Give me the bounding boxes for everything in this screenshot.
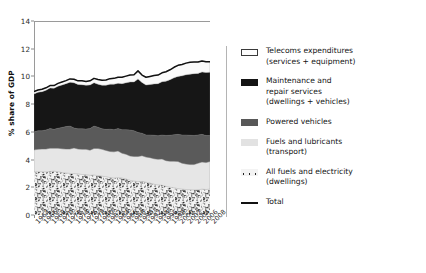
y-axis-title: % share of GDP: [7, 58, 21, 148]
legend-swatch-icon: [241, 49, 258, 56]
legend-label: Total: [266, 197, 284, 208]
legend-label: Telecoms expenditures(services + equipme…: [266, 46, 355, 67]
legend-item[interactable]: Fuels and lubricants(transport): [241, 137, 422, 158]
y-axis-tick-mark: [31, 76, 34, 77]
y-axis-tick-mark: [31, 104, 34, 105]
stacked-area-canvas: [34, 21, 210, 215]
legend-label: All fuels and electricity(dwellings): [266, 167, 353, 188]
y-axis-tick-label: 14: [21, 17, 30, 26]
y-axis-tick-mark: [31, 131, 34, 132]
legend-swatch-icon: [241, 119, 258, 126]
chart-root: % share of GDP 0246810121419641966196819…: [0, 0, 426, 273]
y-axis-tick-label: 6: [25, 127, 30, 136]
legend-swatch-icon: [241, 79, 258, 86]
legend-label: Maintenance andrepair services(dwellings…: [266, 76, 350, 108]
y-axis-tick-mark: [31, 21, 34, 22]
legend-item[interactable]: All fuels and electricity(dwellings): [241, 167, 422, 188]
y-axis-tick-mark: [31, 187, 34, 188]
y-axis-tick-label: 12: [21, 44, 30, 53]
legend-label: Fuels and lubricants(transport): [266, 137, 342, 158]
y-axis-tick-label: 10: [21, 72, 30, 81]
legend-item[interactable]: Powered vehicles: [241, 117, 422, 128]
legend-swatch-icon: [241, 199, 258, 206]
y-axis-tick-mark: [31, 48, 34, 49]
legend-swatch-icon: [241, 139, 258, 146]
legend-item[interactable]: Maintenance andrepair services(dwellings…: [241, 76, 422, 108]
y-axis-tick-mark: [31, 159, 34, 160]
y-axis-tick-label: 2: [25, 183, 30, 192]
legend-label: Powered vehicles: [266, 117, 332, 128]
legend-item[interactable]: Total: [241, 197, 422, 208]
legend-item[interactable]: Telecoms expenditures(services + equipme…: [241, 46, 422, 67]
legend-swatch-icon: [241, 169, 258, 176]
y-axis-tick-label: 8: [25, 100, 30, 109]
plot-area: 0246810121419641966196819701972197419761…: [34, 21, 210, 215]
chart-legend: Telecoms expenditures(services + equipme…: [226, 46, 422, 217]
y-axis-tick-label: 0: [25, 211, 30, 220]
y-axis-tick-label: 4: [25, 155, 30, 164]
